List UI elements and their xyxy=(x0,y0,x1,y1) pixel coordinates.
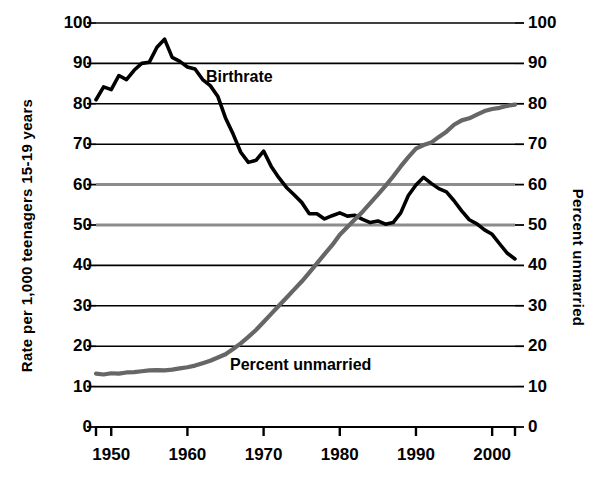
x-axis-ticks: 195019601970198019902000 xyxy=(0,0,604,484)
x-tick-label-1950: 1950 xyxy=(81,446,141,463)
x-tick-label-1960: 1960 xyxy=(157,446,217,463)
series-label-unmarried: Percent unmarried xyxy=(230,357,371,373)
x-tick-label-1980: 1980 xyxy=(310,446,370,463)
chart-container: Rate per 1,000 teenagers 15-19 years Per… xyxy=(0,0,604,484)
series-label-birthrate: Birthrate xyxy=(206,69,273,85)
x-tick-label-1990: 1990 xyxy=(386,446,446,463)
x-tick-label-1970: 1970 xyxy=(234,446,294,463)
x-tick-label-2000: 2000 xyxy=(462,446,522,463)
